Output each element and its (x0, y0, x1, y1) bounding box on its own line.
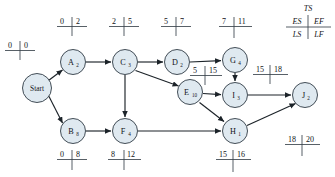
node-g-label: G (230, 56, 236, 65)
node-e-duration: 10 (192, 92, 198, 98)
time-label-c: 2 5 (109, 17, 139, 36)
time-label-d: 5 7 (161, 17, 191, 36)
node-d-label: D (172, 58, 178, 67)
time-label-g-es: 7 (222, 17, 226, 26)
legend-early-finish: EF (313, 17, 324, 26)
time-label-i-ef: 18 (274, 65, 282, 74)
node-a-duration: 2 (76, 62, 79, 68)
node-f[interactable]: F 4 (113, 119, 138, 144)
network-diagram-svg: 0 0 0 2 2 5 5 7 (0, 0, 335, 177)
node-c[interactable]: C 3 (113, 50, 138, 75)
time-label-i-es: 15 (256, 65, 264, 74)
time-label-g-ef: 11 (238, 17, 246, 26)
time-label-b-ef: 8 (76, 150, 80, 159)
time-label-a-ef: 2 (76, 17, 80, 26)
time-label-e-es: 5 (193, 66, 197, 75)
node-g-duration: 4 (238, 60, 241, 66)
time-label-d-es: 5 (164, 17, 168, 26)
edge-e-h (200, 103, 225, 122)
time-label-c-es: 2 (112, 17, 116, 26)
time-label-h: 15 16 (216, 150, 251, 172)
edge-d-g (190, 61, 221, 62)
node-c-label: C (120, 58, 126, 67)
node-e-label: E (184, 88, 189, 97)
time-label-g: 7 11 (219, 17, 252, 38)
node-b-duration: 8 (76, 131, 79, 137)
time-label-h-ef: 16 (237, 150, 245, 159)
node-f-label: F (121, 127, 126, 136)
node-g[interactable]: G 4 (223, 48, 248, 73)
node-e-circle[interactable] (178, 80, 203, 105)
network-diagram-canvas: 0 0 0 2 2 5 5 7 (0, 0, 335, 177)
time-label-f-ef: 12 (127, 150, 135, 159)
time-label-c-ef: 5 (128, 17, 132, 26)
node-b[interactable]: B 8 (61, 119, 86, 144)
node-h-duration: 1 (238, 131, 241, 137)
node-i-circle[interactable] (223, 83, 248, 108)
node-a[interactable]: A 2 (61, 50, 86, 75)
node-j[interactable]: J 2 (293, 83, 318, 108)
node-i-label: I (232, 91, 235, 100)
node-e[interactable]: E 10 (178, 80, 203, 105)
time-label-j: 18 20 (285, 135, 320, 156)
node-j-duration: 2 (307, 95, 310, 101)
edge-start-b (49, 96, 63, 124)
legend-late-finish: LF (313, 30, 323, 39)
time-label-f: 8 12 (108, 150, 141, 170)
time-label-start-es: 0 (8, 41, 12, 50)
node-d-duration: 2 (180, 62, 183, 68)
node-b-label: B (68, 127, 74, 136)
legend-early-start: ES (292, 17, 302, 26)
node-h-label: H (230, 127, 236, 136)
node-h[interactable]: H 1 (223, 119, 248, 144)
node-a-label: A (68, 58, 74, 67)
time-label-b-es: 0 (60, 150, 64, 159)
time-label-f-es: 8 (111, 150, 115, 159)
node-c-duration: 3 (128, 62, 131, 68)
time-label-a-es: 0 (60, 17, 64, 26)
time-label-e-ef: 15 (209, 66, 217, 75)
time-label-d-ef: 7 (180, 17, 184, 26)
node-i[interactable]: I 3 (223, 83, 248, 108)
time-label-b: 0 8 (57, 150, 87, 170)
time-label-start: 0 0 (5, 41, 35, 60)
node-start-label: Start (30, 84, 45, 93)
time-label-j-ef: 20 (306, 135, 314, 144)
node-f-duration: 4 (128, 131, 131, 137)
node-i-duration: 3 (237, 95, 240, 101)
legend-late-start: LS (292, 30, 301, 39)
time-label-a: 0 2 (57, 17, 87, 36)
node-d[interactable]: D 2 (165, 50, 190, 75)
legend: TS ES EF LS LF (286, 4, 331, 39)
edge-e-i (203, 94, 221, 95)
time-label-start-ef: 0 (24, 41, 28, 50)
edge-h-j (247, 104, 296, 126)
edge-start-a (49, 70, 63, 81)
node-start[interactable]: Start (23, 74, 52, 103)
time-label-i: 15 18 (253, 65, 288, 84)
time-label-j-es: 18 (288, 135, 296, 144)
time-label-h-es: 15 (219, 150, 227, 159)
legend-total-slack: TS (304, 4, 312, 13)
